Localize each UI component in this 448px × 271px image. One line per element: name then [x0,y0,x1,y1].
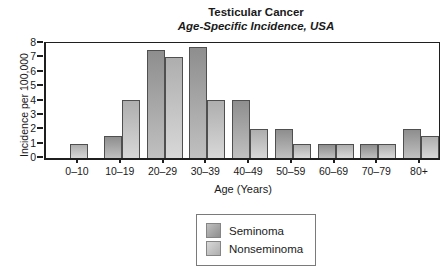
bar-nonseminoma-0-10 [70,144,88,158]
bar-nonseminoma-20-29 [165,57,183,158]
bar-seminoma-60-69 [318,144,336,158]
x-tick-label: 0–10 [65,165,88,177]
x-tick-mark [375,158,377,163]
legend-label-nonseminoma: Nonseminoma [229,243,303,255]
y-tick-mark [37,84,43,86]
y-tick-mark [37,113,43,115]
figure-testicular-cancer-chart: Testicular Cancer Age-Specific Incidence… [0,0,448,271]
x-tick-mark [162,158,164,163]
y-tick-label: 8 [20,36,36,48]
x-tick-mark [119,158,121,163]
bar-nonseminoma-50-59 [293,144,311,158]
y-tick-mark [37,99,43,101]
x-tick-label: 80+ [410,165,428,177]
bar-seminoma-30-39 [189,47,207,158]
y-tick-label: 6 [20,65,36,77]
x-tick-label: 60–69 [319,165,348,177]
bar-seminoma-40-49 [232,100,250,158]
legend-item-nonseminoma: Nonseminoma [206,241,303,256]
bar-seminoma-70-79 [360,144,378,158]
y-tick-label: 2 [20,122,36,134]
bar-seminoma-80+ [403,129,421,158]
x-axis-label: Age (Years) [0,183,448,195]
title-block: Testicular Cancer Age-Specific Incidence… [0,5,448,33]
y-tick-mark [37,127,43,129]
y-tick-mark [37,55,43,57]
bar-nonseminoma-30-39 [207,100,225,158]
bar-seminoma-20-29 [147,50,165,158]
y-tick-mark [37,41,43,43]
x-tick-label: 40–49 [233,165,262,177]
bar-seminoma-50-59 [275,129,293,158]
y-tick-label: 5 [20,79,36,91]
bar-nonseminoma-60-69 [336,144,354,158]
chart-subtitle: Age-Specific Incidence, USA [64,19,448,33]
x-tick-label: 10–19 [105,165,134,177]
y-tick-mark [37,156,43,158]
chart-title: Testicular Cancer [64,5,448,19]
x-tick-mark [290,158,292,163]
bar-nonseminoma-40-49 [250,129,268,158]
bar-nonseminoma-80+ [421,136,439,158]
y-tick-mark [37,142,43,144]
y-tick-label: 1 [20,137,36,149]
y-tick-label: 3 [20,108,36,120]
legend: Seminoma Nonseminoma [196,214,316,266]
plot-area [44,42,440,160]
x-tick-label: 30–39 [191,165,220,177]
x-tick-mark [333,158,335,163]
x-tick-mark [247,158,249,163]
y-tick-label: 4 [20,94,36,106]
x-tick-label: 70–79 [362,165,391,177]
x-tick-mark [418,158,420,163]
bar-nonseminoma-70-79 [378,144,396,158]
y-tick-mark [37,70,43,72]
bar-seminoma-10-19 [104,136,122,158]
x-tick-label: 50–59 [276,165,305,177]
bar-nonseminoma-10-19 [122,100,140,158]
legend-label-seminoma: Seminoma [229,225,284,237]
x-tick-mark [76,158,78,163]
seminoma-swatch-icon [206,223,221,238]
y-tick-label: 0 [20,151,36,163]
nonseminoma-swatch-icon [206,241,221,256]
x-tick-label: 20–29 [148,165,177,177]
legend-item-seminoma: Seminoma [206,223,303,238]
x-tick-mark [204,158,206,163]
y-tick-label: 7 [20,50,36,62]
